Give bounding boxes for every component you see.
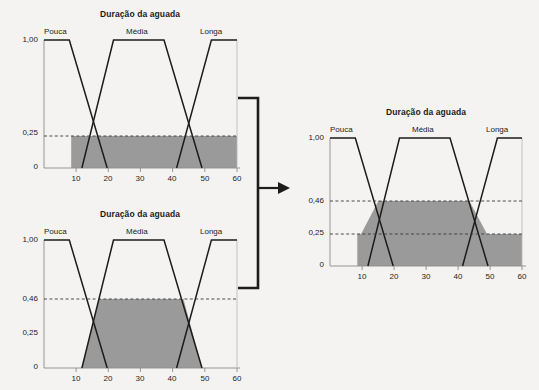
xtick-40: 40 [158, 374, 186, 383]
xtick-20: 20 [380, 272, 408, 281]
chart-bottom-left: Duração da aguada Pouca Média Longa 1,00… [0, 200, 260, 390]
chart-right: Duração da aguada Pouca Média Longa 1,00… [290, 96, 539, 291]
chart-plot-area [0, 0, 260, 190]
xtick-50: 50 [191, 374, 219, 383]
chart-plot-area [290, 96, 539, 291]
xtick-40: 40 [158, 174, 186, 183]
chart-top-left: Duração da aguada Pouca Média Longa 1,00… [0, 0, 260, 190]
xtick-20: 20 [94, 174, 122, 183]
xtick-30: 30 [126, 374, 154, 383]
xtick-20: 20 [94, 374, 122, 383]
xtick-60: 60 [223, 374, 251, 383]
xtick-40: 40 [444, 272, 472, 281]
xtick-50: 50 [476, 272, 504, 281]
xtick-10: 10 [62, 374, 90, 383]
xtick-50: 50 [191, 174, 219, 183]
xtick-30: 30 [126, 174, 154, 183]
connector-bracket-arrow [236, 92, 292, 298]
arrow-head-icon [278, 182, 290, 194]
xtick-60: 60 [508, 272, 536, 281]
xtick-10: 10 [348, 272, 376, 281]
bracket-icon [238, 98, 258, 288]
chart-plot-area [0, 200, 260, 390]
connector-svg [236, 92, 292, 298]
xtick-10: 10 [62, 174, 90, 183]
xtick-30: 30 [412, 272, 440, 281]
shaded-region-alpha-025 [71, 136, 237, 168]
